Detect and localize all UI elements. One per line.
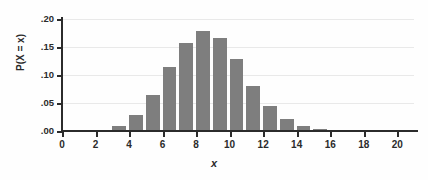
x-tick-mark (196, 132, 198, 137)
y-tick-mark (57, 103, 62, 105)
plot-area (62, 19, 414, 131)
y-tick-label: .05 (14, 97, 54, 108)
x-axis-title: x (0, 157, 428, 169)
bar (263, 106, 277, 131)
x-tick-label: 2 (84, 139, 108, 150)
x-tick-label: 0 (50, 139, 74, 150)
bar (129, 115, 143, 131)
x-tick-label: 12 (251, 139, 275, 150)
x-tick-label: 18 (352, 139, 376, 150)
y-axis-title: P(X = x) (15, 17, 26, 89)
x-tick-label: 20 (385, 139, 409, 150)
x-tick-mark (330, 132, 332, 137)
x-tick-mark (62, 132, 64, 137)
probability-distribution-chart: .00.05.10.15.20 02468101214161820 P(X = … (0, 0, 428, 180)
x-tick-label: 8 (184, 139, 208, 150)
bar (246, 86, 260, 131)
bar (230, 59, 244, 131)
x-tick-mark (96, 132, 98, 137)
bar (146, 95, 160, 131)
y-tick-mark (57, 75, 62, 77)
y-tick-mark (57, 47, 62, 49)
bar (163, 67, 177, 131)
x-tick-label: 14 (285, 139, 309, 150)
y-tick-mark (57, 19, 62, 21)
x-tick-label: 16 (318, 139, 342, 150)
x-tick-mark (263, 132, 265, 137)
bar (213, 38, 227, 131)
bar (196, 31, 210, 131)
x-tick-label: 4 (117, 139, 141, 150)
x-tick-label: 6 (151, 139, 175, 150)
x-tick-mark (129, 132, 131, 137)
x-tick-mark (163, 132, 165, 137)
x-tick-mark (230, 132, 232, 137)
x-tick-mark (297, 132, 299, 137)
x-tick-mark (364, 132, 366, 137)
bar (179, 43, 193, 131)
x-tick-label: 10 (218, 139, 242, 150)
x-tick-mark (397, 132, 399, 137)
y-tick-label: .00 (14, 125, 54, 136)
